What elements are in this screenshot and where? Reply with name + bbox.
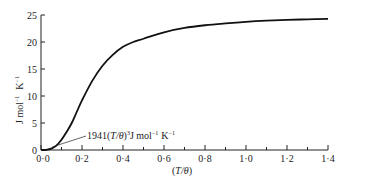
axes (41, 15, 328, 150)
y-tick-label: 5 (32, 118, 37, 129)
y-tick-label: 20 (27, 37, 37, 48)
x-tick-label: 0·0 (36, 153, 49, 164)
debye-curve (41, 19, 328, 150)
y-tick-label: 25 (27, 10, 37, 21)
x-tick-label: 1·0 (239, 153, 252, 164)
x-tick-label: 1·2 (280, 153, 293, 164)
x-tick-label: 0·6 (157, 153, 170, 164)
y-tick-label: 10 (27, 91, 37, 102)
x-ticks: 0·00·20·40·60·81·01·21·4 (36, 145, 334, 164)
x-tick-label: 0·2 (75, 153, 88, 164)
x-tick-label: 0·8 (198, 153, 211, 164)
annotation-leader-line (52, 136, 86, 147)
y-tick-label: 15 (27, 64, 37, 75)
x-tick-label: 0·4 (116, 153, 129, 164)
x-axis-label: (T/θ) (172, 165, 192, 177)
x-tick-label: 1·4 (321, 153, 334, 164)
y-axis-label: J mol−1K−1 (14, 76, 25, 124)
debye-heat-capacity-chart: 0510152025 0·00·20·40·60·81·01·21·4 1941… (0, 0, 380, 181)
y-ticks: 0510152025 (27, 10, 45, 156)
annotation-label: 1941(T/θ)3J mol−1K−1 (87, 130, 175, 142)
